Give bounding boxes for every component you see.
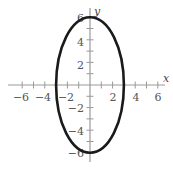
- x-tick-label: 4: [133, 91, 140, 104]
- y-tick-label: 2: [77, 59, 84, 72]
- x-tick-label: −4: [35, 91, 51, 104]
- x-tick-label: −6: [13, 91, 29, 104]
- x-tick-label: 2: [110, 91, 117, 104]
- ellipse-graph: −6 −4 −2 2 4 6 6 4 2 −2 −4 −6 x y: [0, 0, 173, 169]
- x-tick-label: 6: [155, 91, 162, 104]
- axes: [8, 8, 165, 162]
- x-tick-labels: −6 −4 −2 2 4 6: [13, 91, 162, 104]
- y-tick-label: 4: [77, 36, 84, 49]
- x-axis-label: x: [163, 72, 170, 85]
- y-tick-label: −2: [68, 102, 84, 115]
- y-axis-label: y: [93, 5, 101, 18]
- y-tick-label: −4: [68, 125, 84, 138]
- y-tick-label: −6: [68, 147, 84, 160]
